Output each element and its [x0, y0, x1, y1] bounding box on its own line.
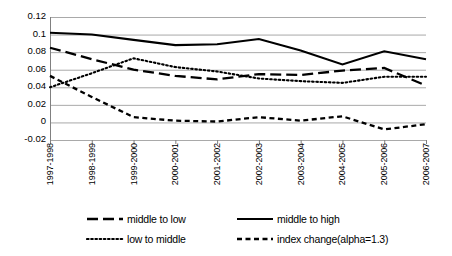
legend-item: index change(alpha=1.3)	[236, 231, 388, 247]
x-tick-label: 2004-2005	[337, 143, 347, 185]
x-tick-label: 1999-2000	[129, 143, 139, 185]
x-tick-label-wrap: 1997-1998	[43, 143, 57, 203]
x-tick-label: 2005-2006	[379, 143, 389, 185]
x-tick-label: 1998-1999	[87, 143, 97, 185]
x-tick-label-wrap: 2005-2006	[377, 143, 391, 203]
x-tick-label-wrap: 2004-2005	[335, 143, 349, 203]
y-tick-label: 0.02	[2, 99, 46, 109]
legend-label: middle to high	[277, 213, 340, 225]
x-tick-label: 2003-2004	[296, 143, 306, 185]
legend-key-solid-icon	[236, 213, 274, 225]
y-tick-label: 0.06	[2, 64, 46, 74]
y-tick-label: 0	[2, 116, 46, 126]
legend-item: middle to low	[86, 211, 186, 227]
x-tick-label: 2000-2001	[170, 143, 180, 185]
legend-key-dotted-icon	[86, 233, 124, 245]
y-tick-label: 0.12	[2, 11, 46, 21]
y-tick-label: 0.1	[2, 29, 46, 39]
x-tick-label: 2001-2002	[212, 143, 222, 185]
x-tick-label-wrap: 2002-2003	[252, 143, 266, 203]
y-axis-tick-labels: 0.120.10.080.060.040.020-0.02	[0, 0, 46, 160]
x-tick-label-wrap: 2001-2002	[210, 143, 224, 203]
x-tick-label: 2002-2003	[254, 143, 264, 185]
x-tick-label-wrap: 2003-2004	[294, 143, 308, 203]
x-axis-tick-labels: 1997-19981998-19991999-20002000-20012001…	[0, 143, 452, 205]
y-tick-label: 0.08	[2, 46, 46, 56]
x-tick-label: 1997-1998	[45, 143, 55, 185]
x-tick-label: 2006-2007	[421, 143, 431, 185]
legend-label: index change(alpha=1.3)	[277, 233, 388, 245]
x-tick-label-wrap: 1998-1999	[85, 143, 99, 203]
legend-key-short-dash-icon	[236, 233, 274, 245]
x-tick-label-wrap: 2000-2001	[168, 143, 182, 203]
chart-legend: middle to lowmiddle to highlow to middle…	[0, 209, 452, 253]
legend-label: low to middle	[127, 233, 186, 245]
legend-label: middle to low	[127, 213, 186, 225]
y-tick-label: 0.04	[2, 81, 46, 91]
x-tick-label-wrap: 1999-2000	[127, 143, 141, 203]
x-tick-label-wrap: 2006-2007	[419, 143, 433, 203]
legend-item: low to middle	[86, 231, 186, 247]
line-chart: 0.120.10.080.060.040.020-0.02 1997-19981…	[0, 0, 452, 256]
legend-key-long-dash-icon	[86, 213, 124, 225]
legend-item: middle to high	[236, 211, 340, 227]
